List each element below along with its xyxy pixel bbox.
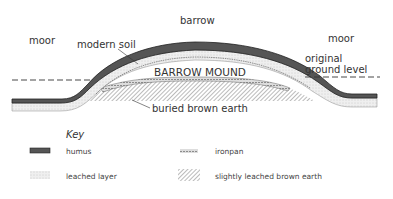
key-label-slightly-leached: slightly leached brown earth bbox=[215, 173, 322, 181]
label-moor-left: moor bbox=[29, 36, 55, 46]
label-modern-soil: modern soil bbox=[77, 40, 136, 50]
label-original-ground-level-1: original bbox=[305, 54, 342, 64]
key-label-ironpan: ironpan bbox=[215, 148, 243, 156]
humus-swatch bbox=[30, 148, 50, 153]
hatched-swatch bbox=[178, 169, 200, 181]
buried-earth-leader bbox=[132, 100, 150, 108]
ironpan-swatch bbox=[180, 149, 198, 153]
leached-layer-swatch bbox=[30, 171, 50, 179]
key-label-leached-layer: leached layer bbox=[66, 173, 117, 181]
label-original-ground-level-2: ground level bbox=[305, 65, 367, 75]
key-title: Key bbox=[66, 129, 84, 140]
barrow-cross-section bbox=[0, 0, 393, 199]
label-barrow: barrow bbox=[180, 16, 215, 26]
label-moor-right: moor bbox=[328, 34, 354, 44]
label-buried-brown-earth: buried brown earth bbox=[152, 104, 248, 114]
buried-brown-earth-region bbox=[80, 78, 315, 101]
key-label-humus: humus bbox=[66, 148, 91, 156]
label-barrow-mound: BARROW MOUND bbox=[154, 67, 246, 78]
